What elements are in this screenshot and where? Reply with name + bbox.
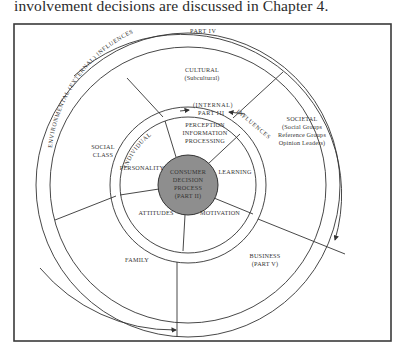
segment-learning: LEARNING — [218, 168, 252, 175]
svg-text:SOCIETAL: SOCIETAL — [286, 115, 317, 122]
segment-social-class: SOCIAL CLASS — [91, 143, 115, 158]
svg-text:(PART V): (PART V) — [252, 260, 278, 268]
core-label: CONSUMER DECISION PROCESS (PART II) — [170, 168, 207, 200]
segment-perception: PERCEPTION INFORMATION PROCESSING — [183, 121, 228, 144]
svg-text:FAMILY: FAMILY — [125, 256, 149, 263]
svg-text:CULTURAL: CULTURAL — [185, 66, 219, 73]
segment-motivation: MOTIVATION — [200, 209, 240, 216]
svg-text:(PART II): (PART II) — [175, 192, 201, 200]
svg-text:SOCIAL: SOCIAL — [91, 143, 115, 150]
svg-text:PROCESS: PROCESS — [174, 184, 203, 191]
svg-text:PERCEPTION: PERCEPTION — [185, 121, 225, 128]
svg-text:DECISION: DECISION — [173, 176, 204, 183]
part4-label: PART IV — [190, 28, 216, 34]
svg-text:Opinion Leaders): Opinion Leaders) — [279, 139, 326, 147]
inner-ring-label-mid: (INTERNAL) — [193, 102, 233, 109]
segment-cultural: CULTURAL (Subcultural) — [184, 66, 219, 82]
svg-text:INFORMATION: INFORMATION — [183, 129, 228, 136]
svg-text:CONSUMER: CONSUMER — [170, 168, 207, 175]
segment-family: FAMILY — [125, 256, 149, 263]
svg-text:BUSINESS: BUSINESS — [250, 252, 281, 259]
consumer-behavior-diagram: ENVIRONMENTAL (EXTERNAL) INFLUENCES PART… — [0, 0, 404, 355]
segment-personality: PERSONALITY — [120, 164, 165, 171]
part3-label: PART III — [198, 110, 225, 116]
svg-text:Reference Groups: Reference Groups — [278, 131, 326, 138]
segment-attitudes: ATTITUDES — [138, 209, 173, 216]
svg-text:(Subcultural): (Subcultural) — [184, 74, 219, 82]
svg-text:CLASS: CLASS — [93, 151, 114, 158]
segment-business: BUSINESS (PART V) — [250, 252, 281, 268]
svg-text:PROCESSING: PROCESSING — [185, 137, 225, 144]
svg-text:(Social Groups: (Social Groups — [282, 123, 322, 131]
